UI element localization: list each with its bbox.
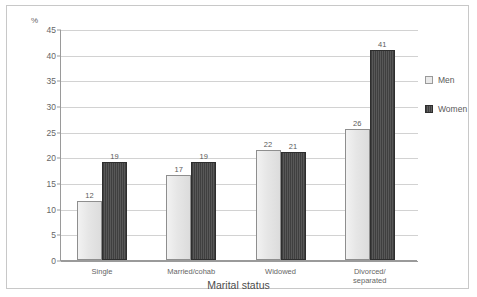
y-axis-unit-label: % [31, 16, 38, 25]
legend-item-men[interactable]: Men [425, 75, 467, 85]
legend-swatch-men [425, 76, 433, 84]
bar-value-label: 41 [378, 40, 386, 49]
y-tick-label-10: 10 [47, 205, 56, 215]
x-tick-label: Widowed [265, 267, 296, 276]
y-tick-mark-25 [57, 132, 61, 133]
y-tick-label-25: 25 [47, 128, 56, 138]
bar-women[interactable]: 41 [370, 50, 395, 260]
bar-women[interactable]: 21 [281, 152, 306, 260]
bar-value-label: 21 [289, 142, 297, 151]
legend-swatch-women [425, 105, 433, 113]
y-tick-label-5: 5 [51, 230, 56, 240]
legend-item-women[interactable]: Women [425, 104, 467, 114]
bar-women[interactable]: 19 [191, 162, 216, 260]
y-tick-mark-5 [57, 235, 61, 236]
y-tick-label-0: 0 [51, 256, 56, 266]
x-axis-title: Marital status [60, 279, 417, 291]
bar-value-label: 19 [200, 152, 208, 161]
y-tick-label-45: 45 [47, 25, 56, 35]
gridline-0 [61, 261, 418, 262]
chart-legend: MenWomen [425, 75, 467, 133]
bar-group: 1219Single [77, 29, 127, 260]
legend-label: Men [438, 75, 455, 85]
bar-group: 1719Married/cohab [166, 29, 216, 260]
x-tick-label: Single [92, 267, 113, 276]
bar-value-label: 12 [85, 191, 93, 200]
y-tick-mark-15 [57, 184, 61, 185]
y-tick-mark-0 [57, 261, 61, 262]
bar-women[interactable]: 19 [102, 162, 127, 260]
y-tick-label-15: 15 [47, 179, 56, 189]
bar-value-label: 17 [175, 165, 183, 174]
y-tick-mark-35 [57, 81, 61, 82]
bar-men[interactable]: 17 [166, 175, 191, 260]
plot-area: 0510152025303540451219Single1719Married/… [60, 30, 417, 261]
bar-men[interactable]: 22 [256, 150, 281, 260]
bar-value-label: 26 [353, 119, 361, 128]
legend-label: Women [438, 104, 467, 114]
x-tick-label: Married/cohab [167, 267, 215, 276]
y-tick-mark-10 [57, 209, 61, 210]
y-tick-mark-20 [57, 158, 61, 159]
bar-value-label: 19 [110, 152, 118, 161]
y-tick-label-30: 30 [47, 102, 56, 112]
y-tick-mark-30 [57, 107, 61, 108]
y-tick-label-40: 40 [47, 51, 56, 61]
chart-figure: % 0510152025303540451219Single1719Marrie… [6, 5, 469, 289]
bar-men[interactable]: 12 [77, 201, 102, 260]
y-tick-mark-40 [57, 55, 61, 56]
bar-men[interactable]: 26 [345, 129, 370, 260]
bar-value-label: 22 [264, 140, 272, 149]
bar-group: 2641Divorced/ separated [345, 29, 395, 260]
y-tick-label-35: 35 [47, 76, 56, 86]
bar-group: 2221Widowed [256, 29, 306, 260]
y-tick-label-20: 20 [47, 153, 56, 163]
y-tick-mark-45 [57, 30, 61, 31]
